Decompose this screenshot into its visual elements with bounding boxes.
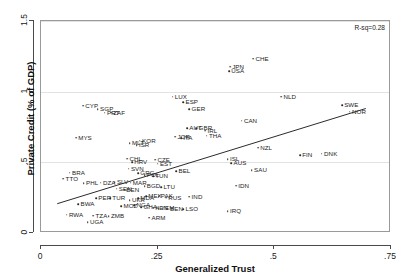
x-tick bbox=[40, 245, 41, 249]
x-tick bbox=[157, 245, 158, 249]
y-tick bbox=[29, 232, 33, 233]
x-axis-line bbox=[40, 245, 390, 246]
x-tick-label: .75 bbox=[384, 251, 396, 261]
y-axis-title: Private Credit (% of GDP) bbox=[25, 34, 36, 204]
x-tick-label: 0 bbox=[38, 251, 43, 261]
x-tick bbox=[273, 245, 274, 249]
regression-fit-line bbox=[41, 21, 389, 231]
y-tick-label: 1.5 bbox=[19, 12, 29, 28]
x-tick-label: .25 bbox=[151, 251, 163, 261]
chart-figure: CHEJPNUSANLDLUXSWEESPCYPSGPGERNORPRTZAFC… bbox=[0, 0, 407, 279]
x-tick-label: .5 bbox=[270, 251, 277, 261]
plot-area: CHEJPNUSANLDLUXSWEESPCYPSGPGERNORPRTZAFC… bbox=[40, 20, 390, 232]
y-tick bbox=[29, 20, 33, 21]
x-tick bbox=[390, 245, 391, 249]
y-tick-label: 0 bbox=[19, 224, 29, 240]
r-squared-annotation: R-sq=0.28 bbox=[354, 24, 385, 31]
x-axis-title: Generalized Trust bbox=[40, 263, 390, 274]
